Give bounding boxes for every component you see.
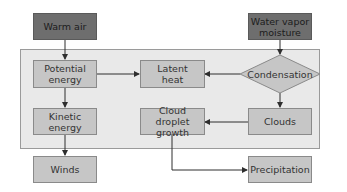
edge-cloud-droplet-growth-to-precipitation — [172, 135, 247, 170]
node-clouds-label: Clouds — [264, 116, 296, 127]
node-condensation-label: Condensation — [247, 69, 312, 80]
node-precipitation: Precipitation — [248, 156, 312, 183]
diagram-canvas: Warm air Water vapor moisture Potential … — [0, 0, 347, 192]
node-winds: Winds — [33, 156, 97, 183]
node-condensation: Condensation — [240, 55, 320, 93]
node-cloud-droplet-growth: Cloud droplet growth — [140, 108, 205, 135]
node-warm-air-label: Warm air — [44, 21, 87, 32]
node-water-vapor-label: Water vapor moisture — [251, 16, 309, 38]
node-winds-label: Winds — [51, 164, 80, 175]
node-latent-heat: Latent heat — [140, 60, 205, 88]
node-potential-energy-label: Potential energy — [44, 63, 86, 85]
node-potential-energy: Potential energy — [33, 60, 97, 88]
node-kinetic-energy-label: Kinetic energy — [48, 111, 81, 133]
node-latent-heat-label: Latent heat — [157, 63, 187, 85]
node-clouds: Clouds — [248, 108, 312, 135]
node-precipitation-label: Precipitation — [250, 164, 309, 175]
node-water-vapor-moisture: Water vapor moisture — [248, 13, 312, 40]
node-kinetic-energy: Kinetic energy — [33, 108, 97, 135]
node-warm-air: Warm air — [33, 13, 97, 40]
node-cloud-droplet-growth-label: Cloud droplet growth — [141, 105, 204, 138]
